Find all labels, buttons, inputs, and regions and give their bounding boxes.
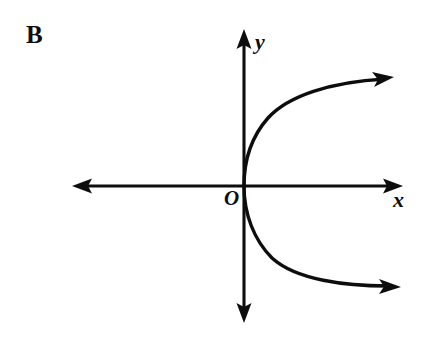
parabola-upper-branch [244, 79, 385, 186]
x-axis-label: x [393, 189, 404, 211]
parabola-lower-branch [244, 186, 388, 286]
coordinate-plane-graphic [0, 0, 424, 337]
panel-letter-label: B [26, 22, 43, 47]
origin-label: O [224, 188, 239, 209]
figure-panel-b: B y x O [0, 0, 424, 337]
y-axis-label: y [255, 31, 265, 53]
